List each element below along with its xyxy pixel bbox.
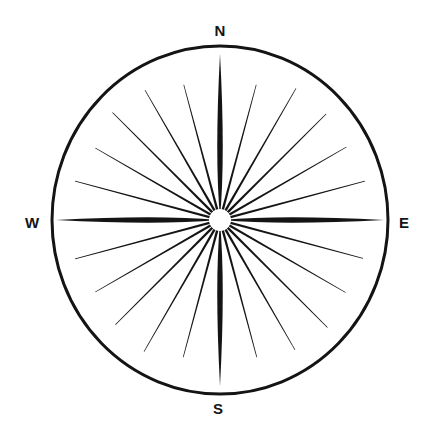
compass-ray: [221, 229, 257, 357]
compass-rose-diagram: NESW: [0, 0, 430, 435]
compass-ray: [115, 226, 214, 325]
compass-ray: [224, 88, 296, 212]
compass-ray: [95, 148, 212, 216]
compass-rose-figure: NESW: [0, 0, 430, 435]
compass-ray: [221, 85, 256, 211]
compass-ray: [224, 228, 295, 350]
compass-ray: [183, 229, 219, 357]
cardinal-spike-n: [217, 54, 223, 218]
cardinal-spike-w: [56, 217, 218, 223]
compass-ray: [229, 181, 365, 219]
compass-ray: [183, 85, 218, 211]
compass-ray: [75, 221, 211, 259]
compass-center-hub: [209, 209, 231, 231]
compass-ray: [228, 224, 346, 293]
compass-ray: [95, 224, 212, 292]
compass-ray: [112, 112, 214, 214]
compass-ray: [144, 228, 216, 352]
compass-ray: [228, 147, 347, 216]
compass-ray: [226, 226, 328, 328]
compass-ray: [229, 221, 363, 258]
cardinal-spike-s: [217, 222, 223, 386]
compass-label-south: S: [213, 400, 223, 417]
cardinal-spike-e: [222, 217, 384, 223]
compass-label-west: W: [25, 214, 40, 231]
compass-label-north: N: [215, 22, 226, 39]
compass-ray: [145, 90, 216, 212]
compass-ray: [75, 181, 211, 219]
compass-ray: [226, 114, 326, 214]
compass-label-east: E: [399, 214, 409, 231]
